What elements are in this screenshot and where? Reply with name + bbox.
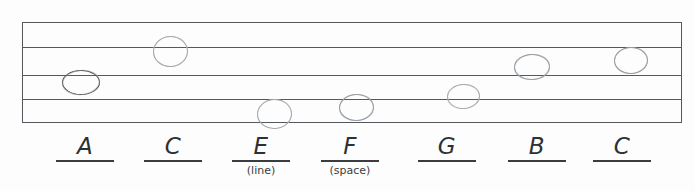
answer-hint-3: (line): [226, 164, 296, 178]
note-G-head: [447, 84, 480, 109]
answer-underline-4: [321, 160, 379, 162]
note-F-head: [339, 94, 374, 121]
answer-underline-2: [144, 160, 202, 162]
answer-slot-3[interactable]: E(line): [226, 133, 296, 178]
answer-letter-2: C: [138, 133, 208, 159]
note-C-head: [153, 36, 188, 67]
answer-slot-7[interactable]: C: [587, 133, 657, 164]
answer-underline-1: [56, 160, 114, 162]
answer-underline-6: [508, 160, 566, 162]
staff-barline-left: [22, 22, 23, 123]
answer-underline-5: [418, 160, 476, 162]
note-E-head: [257, 99, 292, 129]
answer-hint-4: (space): [315, 164, 385, 178]
music-staff-worksheet: ACE(line)F(space)GBC: [0, 0, 695, 191]
answer-slot-5[interactable]: G: [412, 133, 482, 164]
answer-letter-3: E: [226, 133, 296, 159]
answer-letter-5: G: [412, 133, 482, 159]
staff-line-2: [22, 47, 682, 48]
note-A-head: [62, 70, 100, 95]
answer-slot-2[interactable]: C: [138, 133, 208, 164]
answer-slot-6[interactable]: B: [502, 133, 572, 164]
note-C2-head: [614, 47, 648, 74]
answer-letter-6: B: [502, 133, 572, 159]
staff-line-3: [22, 75, 682, 76]
staff-line-5: [22, 122, 682, 123]
staff-barline-right: [681, 22, 682, 123]
answer-underline-3: [232, 160, 290, 162]
answer-letter-4: F: [315, 133, 385, 159]
answer-underline-7: [593, 160, 651, 162]
answer-letter-1: A: [50, 133, 120, 159]
note-B-head: [514, 54, 550, 80]
staff-line-1: [22, 22, 682, 23]
answer-slot-1[interactable]: A: [50, 133, 120, 164]
answer-slot-4[interactable]: F(space): [315, 133, 385, 178]
answer-letter-7: C: [587, 133, 657, 159]
